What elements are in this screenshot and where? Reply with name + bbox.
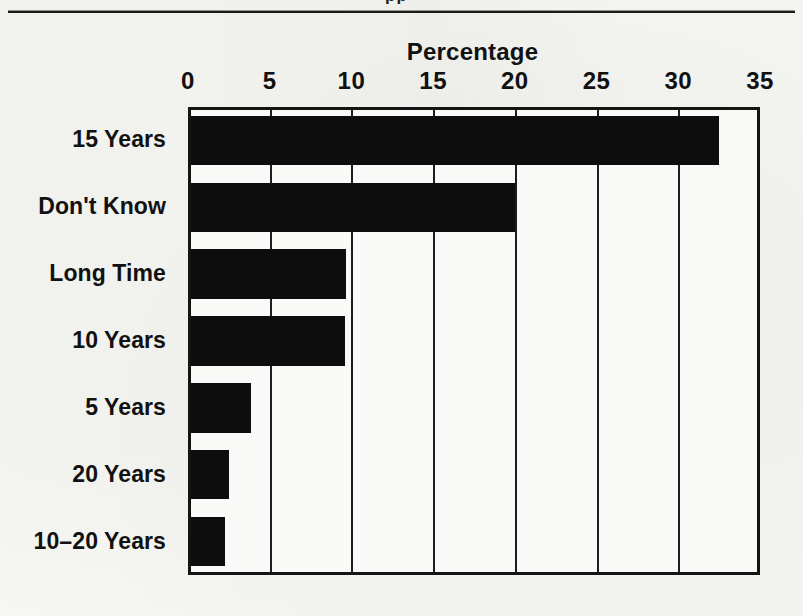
x-tick-label: 20 xyxy=(501,67,529,95)
y-category-label: 20 Years xyxy=(0,461,180,488)
bar-row[interactable] xyxy=(191,383,757,432)
y-category-label: 15 Years xyxy=(0,126,180,153)
x-tick-label: 5 xyxy=(263,67,277,95)
bar-row[interactable] xyxy=(191,249,757,298)
y-category-label: 10 Years xyxy=(0,327,180,354)
x-tick-label: 0 xyxy=(181,67,195,95)
bar-row[interactable] xyxy=(191,517,757,566)
bar[interactable] xyxy=(191,249,346,298)
page-horizontal-rule xyxy=(8,11,795,13)
x-tick-label: 30 xyxy=(664,67,692,95)
bar-row[interactable] xyxy=(191,183,757,232)
bar-row[interactable] xyxy=(191,450,757,499)
bar-row[interactable] xyxy=(191,116,757,165)
x-axis-tick-labels: 05101520253035 xyxy=(0,67,803,97)
y-category-label: 10–20 Years xyxy=(0,528,180,555)
chart-title: Percentage xyxy=(0,38,803,66)
bar[interactable] xyxy=(191,517,225,566)
x-tick-label: 10 xyxy=(338,67,366,95)
bar[interactable] xyxy=(191,450,229,499)
bar[interactable] xyxy=(191,383,251,432)
x-tick-label: 25 xyxy=(583,67,611,95)
bar[interactable] xyxy=(191,183,515,232)
y-category-label: Don't Know xyxy=(0,193,180,220)
x-tick-label: 35 xyxy=(746,67,774,95)
bar[interactable] xyxy=(191,316,345,365)
x-tick-label: 15 xyxy=(419,67,447,95)
bar-series xyxy=(191,110,757,572)
y-category-label: Long Time xyxy=(0,260,180,287)
clipped-header-text: pp xyxy=(385,0,423,9)
bar[interactable] xyxy=(191,116,719,165)
plot-area xyxy=(188,107,760,575)
y-axis-category-labels: 15 YearsDon't KnowLong Time10 Years5 Yea… xyxy=(0,107,180,575)
bar-row[interactable] xyxy=(191,316,757,365)
y-category-label: 5 Years xyxy=(0,394,180,421)
